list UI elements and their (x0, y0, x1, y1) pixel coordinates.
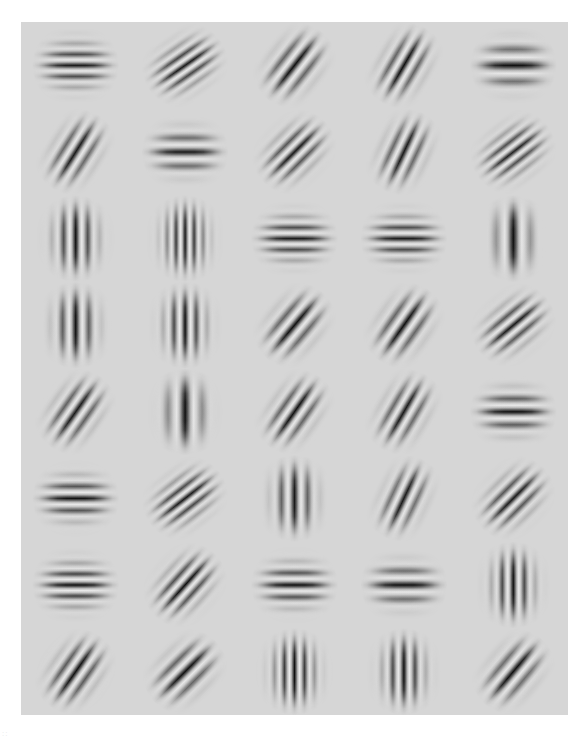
gabor-band-light (308, 453, 321, 543)
gabor-band-light (468, 33, 558, 49)
gabor-band-light (513, 540, 524, 630)
gabor-band-light (163, 280, 174, 370)
gabor-band-light (359, 228, 449, 239)
gabor-grating (468, 25, 558, 105)
gabor-patch (250, 543, 340, 627)
gabor-band-light (207, 280, 218, 370)
gabor-band-light (31, 76, 121, 87)
gabor-band-light (37, 280, 50, 370)
gabor-patch (145, 194, 226, 284)
gabor-band-light (31, 474, 121, 486)
gabor-patch (143, 367, 228, 457)
gabor-grating (31, 27, 121, 104)
gabor-band-light (203, 194, 212, 284)
gabor-band-light (185, 194, 194, 284)
gabor-band-light (140, 166, 230, 180)
gabor-band-light (359, 206, 449, 217)
gabor-band-light (140, 110, 230, 124)
gabor-band-light (250, 250, 340, 261)
gabor-band-light (31, 510, 121, 522)
gabor-band-light (480, 540, 491, 630)
gabor-band-light (250, 206, 340, 217)
gabor-band-light (168, 367, 185, 457)
gabor-band-light (31, 596, 121, 607)
gabor-band-light (468, 399, 558, 412)
gabor-grating (468, 373, 558, 451)
gabor-band-light (31, 607, 121, 618)
gabor-band-light (140, 138, 230, 152)
gabor-band-light (468, 373, 558, 386)
gabor-band-light (255, 627, 265, 715)
figure-root: :: (0, 0, 585, 743)
gabor-grating (143, 367, 228, 457)
gabor-band-light (31, 65, 121, 76)
gabor-band-light (285, 627, 295, 715)
gabor-band-light (250, 609, 340, 621)
gabor-band-light (140, 124, 230, 138)
gabor-band-light (269, 453, 282, 543)
gabor-band-light (50, 280, 63, 370)
gabor-band-light (295, 627, 305, 715)
gabor-grating (34, 194, 118, 284)
gabor-band-light (250, 239, 340, 250)
gabor-filter-bank-panel (21, 22, 568, 715)
gabor-patch (475, 540, 552, 630)
gabor-band-light (468, 81, 558, 97)
gabor-band-light (359, 239, 449, 250)
gabor-band-light (100, 194, 112, 284)
gabor-band-light (524, 540, 535, 630)
gabor-patch (359, 550, 449, 620)
gabor-band-light (250, 573, 340, 585)
gabor-patch (479, 194, 547, 284)
gabor-band-light (250, 585, 340, 597)
gabor-band-light (275, 627, 285, 715)
gabor-band-light (250, 228, 340, 239)
gabor-band-light (502, 540, 513, 630)
gabor-band-light (250, 597, 340, 609)
gabor-band-light (468, 425, 558, 438)
gabor-grating (147, 280, 224, 370)
gabor-band-light (359, 217, 449, 228)
gabor-band-light (282, 453, 295, 543)
gabor-patch (140, 110, 230, 194)
gabor-band-light (305, 627, 315, 715)
gabor-patch (31, 456, 121, 540)
gabor-band-light (185, 280, 196, 370)
gabor-band-light (359, 250, 449, 261)
gabor-band-light (31, 486, 121, 498)
gabor-grating (250, 200, 340, 277)
gabor-band-light (256, 453, 269, 543)
gabor-grating (479, 194, 547, 284)
gabor-band-light (359, 599, 449, 613)
gabor-band-light (31, 498, 121, 510)
gabor-band-light (149, 194, 158, 284)
gabor-band-light (89, 280, 102, 370)
gabor-band-light (315, 627, 325, 715)
gabor-patch (468, 25, 558, 105)
gabor-band-light (158, 194, 167, 284)
gabor-band-light (426, 627, 437, 715)
gabor-band-light (40, 194, 52, 284)
gabor-band-light (382, 627, 393, 715)
gabor-band-light (88, 194, 100, 284)
gabor-band-light (31, 32, 121, 43)
gabor-band-light (64, 194, 76, 284)
gabor-patch (31, 547, 121, 624)
gabor-band-light (359, 585, 449, 599)
gabor-patch (365, 627, 442, 715)
gabor-grating (359, 550, 449, 620)
gabor-band-light (535, 540, 546, 630)
gabor-band-light (76, 280, 89, 370)
gabor-band-light (31, 54, 121, 65)
gabor-band-light (102, 280, 115, 370)
gabor-band-light (31, 574, 121, 585)
gabor-band-light (325, 627, 335, 715)
gabor-band-light (174, 280, 185, 370)
gabor-grating (140, 110, 230, 194)
gabor-band-light (265, 627, 275, 715)
gabor-band-light (359, 557, 449, 571)
gabor-grating (250, 543, 340, 627)
gabor-grid-svg (21, 22, 568, 715)
gabor-band-light (371, 627, 382, 715)
gabor-band-light (250, 217, 340, 228)
